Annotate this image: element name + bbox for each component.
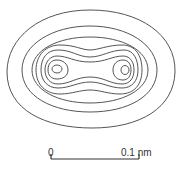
contour-diagram [0, 0, 180, 173]
contour-2 [22, 26, 157, 112]
nucleus-left-core [52, 65, 62, 73]
nucleus-left-contour [48, 60, 68, 79]
nucleus-right-contour [113, 60, 131, 80]
scale-end-label: 0.1 nm [121, 148, 152, 158]
scale-start-label: 0 [48, 148, 54, 158]
nucleus-right-core [121, 66, 129, 75]
